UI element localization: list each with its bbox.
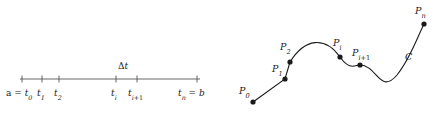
tick-label-t0-sub: 0 bbox=[28, 94, 32, 102]
point-label-Pi: Pi bbox=[333, 38, 342, 48]
partition-axis-graphic bbox=[0, 0, 225, 117]
sample-point-Pi bbox=[337, 54, 342, 59]
tick-label-ti: ti bbox=[111, 89, 117, 98]
tick-label-ti-plus-1: ti+1 bbox=[128, 89, 143, 98]
curve-name-label-C: C bbox=[405, 52, 412, 62]
tick-label-t0: a = t0 bbox=[6, 89, 32, 98]
delta-t-label: Δt bbox=[118, 62, 128, 71]
point-label-P0: P0 bbox=[239, 86, 250, 96]
arc-length-figure: Δt a = t0 t1 t2 ti ti+1 tn = b P0 P1 bbox=[0, 0, 445, 117]
sample-point-P0 bbox=[250, 99, 255, 104]
tick-label-t1: t1 bbox=[37, 89, 45, 98]
point-label-P2: P2 bbox=[280, 42, 291, 52]
tick-label-tn: tn = b bbox=[178, 89, 205, 98]
partition-diagram: Δt a = t0 t1 t2 ti ti+1 tn = b bbox=[0, 0, 225, 117]
tick-label-tn-suffix-b: b bbox=[199, 88, 205, 98]
tick-label-t2: t2 bbox=[54, 89, 62, 98]
parametric-curve-path bbox=[253, 24, 424, 102]
sample-point-Pn bbox=[421, 21, 426, 26]
sample-point-P2 bbox=[287, 59, 292, 64]
sample-point-P1 bbox=[282, 76, 287, 81]
curve-diagram: P0 P1 P2 Pi Pi+1 Pn C bbox=[225, 0, 445, 117]
point-label-Pi-plus-1: Pi+1 bbox=[352, 48, 370, 58]
point-label-Pn: Pn bbox=[415, 6, 426, 16]
delta-variable: t bbox=[125, 61, 129, 71]
sample-point-Pi+1 bbox=[357, 62, 362, 67]
point-label-P1: P1 bbox=[272, 64, 283, 74]
